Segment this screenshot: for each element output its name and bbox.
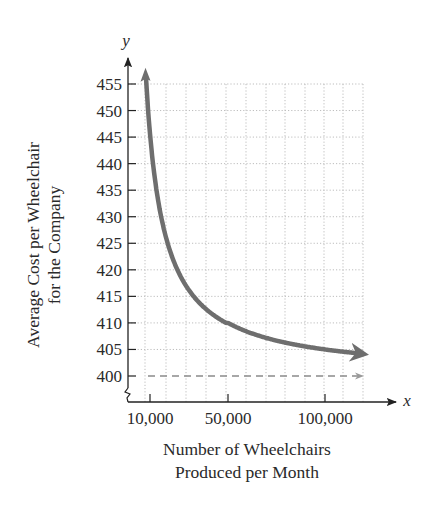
x-axis-variable: x <box>402 391 411 410</box>
grid-lines <box>128 84 364 402</box>
y-axis-break-icon <box>125 388 130 402</box>
y-tick-label: 405 <box>97 340 123 359</box>
y-tick-label: 425 <box>97 234 123 253</box>
y-tick-label: 420 <box>97 261 123 280</box>
y-tick-label: 440 <box>97 155 123 174</box>
y-axis-title-line-2: for the Company <box>44 185 64 304</box>
x-tick-label: 100,000 <box>297 409 352 428</box>
x-axis-ticks: 10,00050,000100,000 <box>127 394 353 428</box>
chart: 400405410415420425430435440445450455 10,… <box>0 0 441 507</box>
y-tick-label: 415 <box>97 287 123 306</box>
y-tick-label: 455 <box>97 75 123 94</box>
y-axis-ticks: 400405410415420425430435440445450455 <box>97 75 137 386</box>
y-tick-label: 400 <box>97 367 123 386</box>
y-axis-title-line-1: Average Cost per Wheelchair <box>23 142 43 348</box>
y-tick-label: 430 <box>97 208 123 227</box>
y-axis-variable: y <box>120 31 130 50</box>
y-axis-title: Average Cost per Wheelchair for the Comp… <box>23 142 64 348</box>
x-tick-label: 10,000 <box>127 409 174 428</box>
average-cost-curve <box>146 78 362 354</box>
y-tick-label: 445 <box>97 128 123 147</box>
y-tick-label: 410 <box>97 314 123 333</box>
y-tick-label: 435 <box>97 181 123 200</box>
x-axis-title-line-2: Produced per Month <box>175 462 319 482</box>
x-tick-label: 50,000 <box>205 409 252 428</box>
data-series <box>141 68 363 376</box>
y-tick-label: 450 <box>97 102 123 121</box>
x-axis-title-line-1: Number of Wheelchairs <box>163 439 331 459</box>
